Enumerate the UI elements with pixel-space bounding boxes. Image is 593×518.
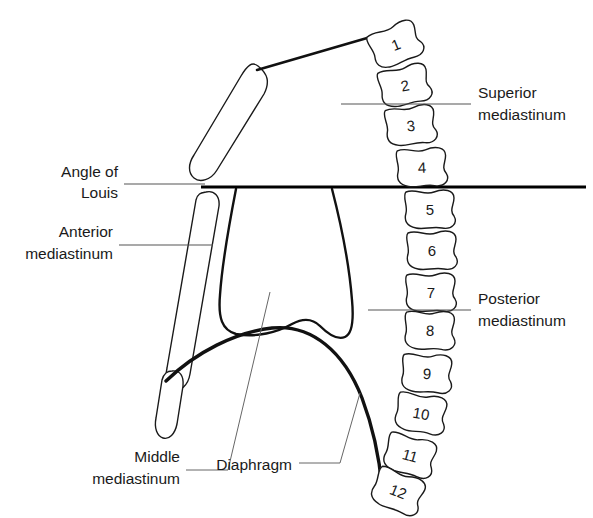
label-posterior-mediastinum: Posterior mediastinum bbox=[478, 290, 566, 329]
vertebra: 6 bbox=[407, 231, 458, 270]
vertebra: 7 bbox=[406, 273, 457, 312]
anterior-mediastinum-line1: Anterior bbox=[59, 223, 113, 240]
first-rib-clavicle bbox=[257, 36, 374, 70]
vertebra-number: 9 bbox=[422, 365, 432, 383]
anterior-mediastinum-line2: mediastinum bbox=[25, 245, 113, 262]
vertebra: 4 bbox=[396, 147, 448, 187]
diaphragm-line1: Diaphragm bbox=[216, 456, 292, 473]
vertebra-number: 4 bbox=[418, 159, 427, 176]
vertebra: 5 bbox=[405, 190, 456, 229]
mediastinum-diagram: 1 2 3 4 5 6 7 bbox=[0, 0, 593, 518]
vertebra-number: 6 bbox=[428, 242, 436, 259]
label-angle-of-louis: Angle of Louis bbox=[61, 163, 119, 201]
vertebra-number: 10 bbox=[411, 404, 430, 424]
middle-mediastinum-line2: mediastinum bbox=[92, 470, 180, 487]
manubrium bbox=[190, 64, 268, 180]
label-superior-mediastinum: Superior mediastinum bbox=[478, 84, 566, 123]
vertebral-column: 1 2 3 4 5 6 7 bbox=[365, 17, 457, 518]
vertebra: 2 bbox=[376, 61, 434, 109]
angle-of-louis-line2: Louis bbox=[81, 184, 118, 201]
posterior-mediastinum-line1: Posterior bbox=[478, 290, 540, 307]
vertebra-number: 8 bbox=[426, 322, 435, 339]
vertebra: 8 bbox=[404, 310, 456, 350]
middle-mediastinum-line1: Middle bbox=[134, 448, 180, 465]
vertebra: 10 bbox=[393, 390, 450, 437]
vertebra-number: 7 bbox=[427, 284, 435, 301]
vertebra-number: 3 bbox=[406, 117, 416, 135]
angle-of-louis-line1: Angle of bbox=[61, 163, 119, 180]
vertebra-number: 5 bbox=[426, 201, 434, 218]
vertebra: 3 bbox=[384, 103, 438, 147]
label-diaphragm: Diaphragm bbox=[216, 456, 292, 473]
diaphragm-leader bbox=[299, 393, 360, 463]
heart-outline bbox=[220, 189, 353, 338]
superior-mediastinum-line2: mediastinum bbox=[478, 106, 566, 123]
xiphoid-process bbox=[155, 371, 183, 438]
label-anterior-mediastinum: Anterior mediastinum bbox=[25, 223, 113, 262]
label-middle-mediastinum: Middle mediastinum bbox=[92, 448, 180, 487]
superior-mediastinum-line1: Superior bbox=[478, 84, 537, 101]
vertebra: 9 bbox=[400, 352, 453, 394]
diagram-canvas: 1 2 3 4 5 6 7 bbox=[0, 0, 593, 518]
posterior-mediastinum-line2: mediastinum bbox=[478, 312, 566, 329]
